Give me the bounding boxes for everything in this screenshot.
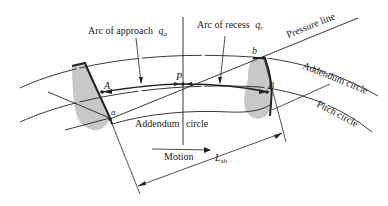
point-P — [181, 82, 185, 86]
pressure-line-label: Pressure line — [285, 10, 337, 40]
lab-dimension-line — [138, 133, 282, 186]
arc-approach-label: Arc of approach qa — [88, 25, 167, 38]
addendum-circle-label-right: Addendum circle — [301, 60, 370, 96]
addendum-circle-label-bottom-b: circle — [186, 118, 209, 129]
approach-leader-arrow — [139, 77, 143, 84]
pitch-circle-label: Pitch circle — [315, 98, 361, 129]
arc-recess-label: Arc of recess qr — [197, 19, 263, 32]
arrow-head-P-right — [186, 82, 192, 86]
motion-arrow-head — [204, 147, 211, 153]
arrow-head-P-left — [174, 82, 180, 86]
point-label-b: b — [252, 45, 257, 56]
lab-arrow-left — [138, 181, 146, 186]
motion-label: Motion — [164, 151, 193, 162]
point-label-A: A — [103, 80, 111, 91]
point-label-B: B — [268, 80, 274, 91]
gear-action-diagram: Arc of approach qa Arc of recess qr Pres… — [0, 0, 388, 206]
addendum-circle-label-bottom-a: Addendum — [135, 118, 180, 129]
motion-arrow-line — [152, 149, 210, 150]
recess-leader — [220, 36, 225, 83]
recess-leader-arrow — [218, 77, 222, 84]
approach-leader — [136, 38, 141, 83]
point-label-a: a — [111, 107, 116, 117]
extension-line-a — [110, 119, 140, 194]
point-label-P: P — [175, 71, 182, 82]
lab-arrow-right — [274, 133, 282, 139]
